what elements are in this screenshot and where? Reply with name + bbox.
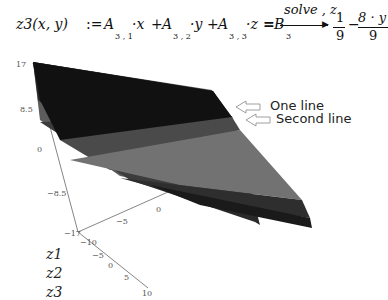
coef-a33: A xyxy=(218,16,228,32)
svg-text:10: 10 xyxy=(142,289,152,298)
svg-text:8.5: 8.5 xyxy=(20,105,33,114)
sub-a31: 3 , 1 xyxy=(115,32,133,41)
svg-text:0: 0 xyxy=(156,205,161,214)
assign-operator: := xyxy=(86,16,102,32)
legend: z1 z2 z3 xyxy=(46,245,62,300)
frac1-numerator: 1 xyxy=(336,10,344,25)
coef-a31: A xyxy=(104,16,114,32)
arrow-left-icon xyxy=(246,114,270,126)
arrow-head-icon: ▶ xyxy=(322,19,329,29)
arrow-left-icon xyxy=(236,101,260,113)
legend-item-z3: z3 xyxy=(46,283,62,300)
annotation-second-line: Second line xyxy=(276,111,351,126)
formula-lhs: z3(x, y) xyxy=(16,16,68,32)
plus-2: + xyxy=(207,16,219,32)
svg-text:−8.5: −8.5 xyxy=(47,189,66,198)
svg-text:−17: −17 xyxy=(64,229,81,238)
equals-operator: = xyxy=(263,16,275,32)
rhs-b: B xyxy=(274,16,284,32)
coef-a32: A xyxy=(162,16,172,32)
svg-text:0: 0 xyxy=(108,261,113,270)
legend-item-z2: z2 xyxy=(46,264,62,283)
legend-item-z1: z1 xyxy=(46,245,62,264)
frac1-denominator: 9 xyxy=(336,28,344,43)
var-z: ·z xyxy=(246,16,258,32)
solve-label: solve , z xyxy=(284,2,337,17)
svg-text:17: 17 xyxy=(16,60,26,69)
formula-definition: z3(x, y) := A 3 , 1 ·x + A 3 , 2 ·y + A … xyxy=(16,6,376,46)
x-axis-ticks: −5 0 xyxy=(116,205,161,226)
solve-arrow xyxy=(280,25,328,26)
frac2-denominator: 9 xyxy=(369,28,377,43)
sub-a33: 3 , 3 xyxy=(229,32,247,41)
y-axis-ticks: −10 −5 0 5 10 xyxy=(80,238,152,298)
svg-text:0: 0 xyxy=(37,145,42,154)
sub-a32: 3 , 2 xyxy=(173,32,191,41)
svg-text:−5: −5 xyxy=(116,217,128,226)
var-x: ·x xyxy=(132,16,144,32)
svg-text:5: 5 xyxy=(124,273,129,282)
sub-b3: 3 xyxy=(286,32,291,41)
svg-text:−10: −10 xyxy=(80,238,97,247)
svg-text:−5: −5 xyxy=(92,251,104,260)
frac2-numerator: 8 · y xyxy=(358,10,386,25)
var-y: ·y xyxy=(190,16,202,32)
plus-1: + xyxy=(151,16,163,32)
